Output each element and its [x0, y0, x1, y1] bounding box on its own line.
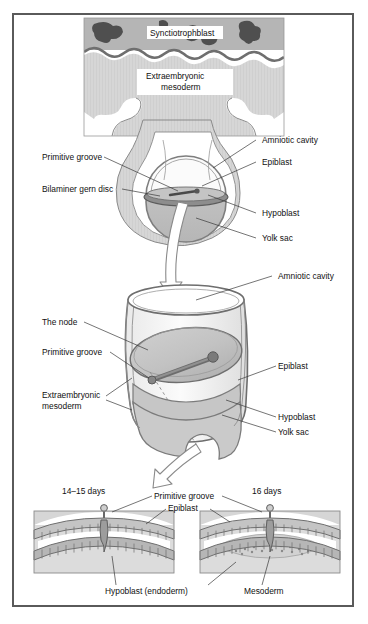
- section-16-days: 16 days: [200, 486, 340, 573]
- label-bilaminar-germ-disc: Bilaminer gern disc: [42, 184, 113, 194]
- amniotic-cavity-rim: [128, 285, 244, 315]
- label-epiblast-bottom: Epiblast: [168, 503, 198, 513]
- label-hypoblast-upper: Hypoblast: [262, 208, 300, 218]
- label-hypoblast-endoderm: Hypoblast (endoderm): [105, 586, 188, 596]
- label-stage-16-days: 16 days: [252, 486, 281, 496]
- section-14-15-days: 14–15 days: [34, 486, 174, 573]
- leader-primitive-groove-left-section: [112, 496, 152, 512]
- label-text-extraembryonic-line1-top: Extraembryonic: [146, 71, 204, 81]
- label-yolk-sac-middle: Yolk sac: [278, 427, 309, 437]
- label-syncytiotrophoblast: Synctiotrophblast: [147, 26, 223, 39]
- figure-root: Synctiotrophblast Extraembryonic mesoder…: [0, 0, 368, 624]
- label-the-node: The node: [42, 317, 78, 327]
- label-text-syncytiotrophoblast: Synctiotrophblast: [150, 28, 215, 38]
- label-yolk-sac-upper: Yolk sac: [262, 233, 293, 243]
- label-extraembryonic-mesoderm-top: Extraembryonic mesoderm: [137, 69, 233, 95]
- label-text-extraembryonic-line2-top: mesoderm: [161, 82, 201, 92]
- label-extraembryonic-line1-middle: Extraembryonic: [42, 390, 100, 400]
- implantation-site-panel: Synctiotrophblast Extraembryonic mesoder…: [84, 18, 284, 136]
- embryonic-disc-cutaway-panel: The node Primitive groove Extraembryonic…: [42, 271, 335, 459]
- label-epiblast-upper: Epiblast: [262, 157, 292, 167]
- label-extraembryonic-line2-middle: mesoderm: [42, 401, 82, 411]
- node-knob: [208, 352, 218, 362]
- label-amniotic-cavity-upper: Amniotic cavity: [262, 135, 319, 145]
- label-amniotic-cavity-middle: Amniotic cavity: [278, 271, 335, 281]
- label-epiblast-middle: Epiblast: [278, 361, 308, 371]
- embryology-diagram: Synctiotrophblast Extraembryonic mesoder…: [0, 0, 368, 624]
- label-hypoblast-middle: Hypoblast: [278, 412, 316, 422]
- label-mesoderm: Mesoderm: [244, 586, 284, 596]
- leader-primitive-groove-right-section: [222, 496, 262, 512]
- left-groove-knob: [101, 505, 108, 512]
- label-primitive-groove-bottom: Primitive groove: [154, 491, 214, 501]
- right-groove-knob: [267, 505, 274, 512]
- primitive-node: [194, 188, 199, 193]
- label-stage-14-15-days: 14–15 days: [62, 486, 105, 496]
- epiblast-surface: [147, 187, 225, 201]
- leader-exmeso-b: [106, 400, 132, 410]
- label-primitive-groove-upper: Primitive groove: [42, 152, 102, 162]
- cross-section-panel: 14–15 days: [34, 486, 340, 596]
- label-primitive-groove-middle: Primitive groove: [42, 347, 102, 357]
- streak-caudal-end: [148, 376, 156, 384]
